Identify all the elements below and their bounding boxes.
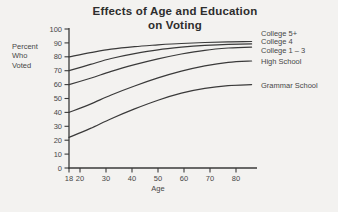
y-tick-label: 100 [49,25,62,34]
x-tick-label: 70 [206,174,214,183]
y-tick-label: 90 [54,39,62,48]
x-tick-label: 20 [76,174,84,183]
series-label-grammar-school: Grammar School [261,81,318,90]
y-tick-label: 30 [54,122,62,131]
y-tick-label: 40 [54,108,62,117]
y-tick-label: 20 [54,136,62,145]
x-tick-label: 40 [128,174,136,183]
line-chart: 01020304050607080901001820304050607080Ag… [0,0,338,212]
x-axis-label: Age [151,184,164,193]
x-tick-label: 60 [180,174,188,183]
y-tick-label: 0 [58,164,62,173]
y-tick-label: 10 [54,150,62,159]
y-tick-label: 50 [54,94,62,103]
x-tick-label: 80 [232,174,240,183]
y-tick-label: 70 [54,66,62,75]
curve-high-school [69,61,252,112]
curve-grammar-school [69,85,252,138]
x-tick-label: 18 [65,174,73,183]
curve-college-1-3 [69,47,252,85]
textbook-figure: Effects of Age and Education on Voting P… [0,0,338,212]
y-tick-label: 60 [54,80,62,89]
x-tick-label: 30 [102,174,110,183]
y-tick-label: 80 [54,52,62,61]
series-label-college-1-3: College 1 – 3 [261,46,305,55]
x-tick-label: 50 [154,174,162,183]
series-label-high-school: High School [261,57,302,66]
